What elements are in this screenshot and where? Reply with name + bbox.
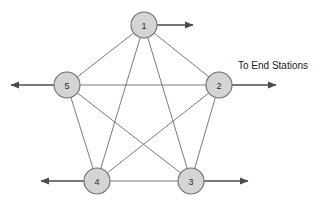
node-label-2: 2 <box>216 81 221 91</box>
edge-4-5 <box>71 97 93 168</box>
edge-1-3 <box>148 37 187 168</box>
edge-1-4 <box>101 37 140 168</box>
edge-2-4 <box>107 93 209 173</box>
network-topology-diagram: 12345 <box>0 0 329 207</box>
node-label-1: 1 <box>141 21 146 31</box>
to-end-stations-label: To End Stations <box>238 60 308 71</box>
edge-3-5 <box>77 93 180 173</box>
node-1[interactable]: 1 <box>131 12 157 38</box>
node-label-3: 3 <box>188 177 193 187</box>
node-label-5: 5 <box>64 81 69 91</box>
nodes-group: 12345 <box>54 12 232 194</box>
node-2[interactable]: 2 <box>206 72 232 98</box>
diagram-canvas: 12345 To End Stations <box>0 0 329 207</box>
edge-1-2 <box>154 33 209 77</box>
edge-1-5 <box>77 33 133 77</box>
trunk-links-group <box>11 25 276 181</box>
node-4[interactable]: 4 <box>84 168 110 194</box>
node-label-4: 4 <box>94 177 99 187</box>
node-3[interactable]: 3 <box>178 168 204 194</box>
edges-group <box>71 33 215 181</box>
node-5[interactable]: 5 <box>54 72 80 98</box>
edge-2-3 <box>195 97 216 168</box>
